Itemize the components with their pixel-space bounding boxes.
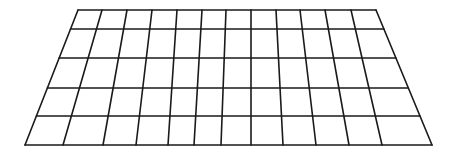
grid-column-line-10 bbox=[325, 10, 349, 145]
horizontal-grid-lines bbox=[25, 10, 432, 145]
grid-column-line-9 bbox=[300, 10, 316, 145]
vertical-grid-lines bbox=[25, 10, 432, 145]
grid-column-line-8 bbox=[276, 10, 283, 145]
grid-column-line-6 bbox=[221, 10, 226, 145]
grid-column-line-0 bbox=[25, 10, 78, 145]
perspective-grid bbox=[0, 0, 457, 154]
grid-column-line-5 bbox=[194, 10, 202, 145]
grid-column-line-12 bbox=[376, 10, 432, 145]
grid-column-line-1 bbox=[63, 10, 102, 145]
grid-column-line-2 bbox=[103, 10, 127, 145]
grid-column-line-3 bbox=[136, 10, 152, 145]
grid-column-line-11 bbox=[351, 10, 382, 145]
grid-column-line-4 bbox=[168, 10, 177, 145]
